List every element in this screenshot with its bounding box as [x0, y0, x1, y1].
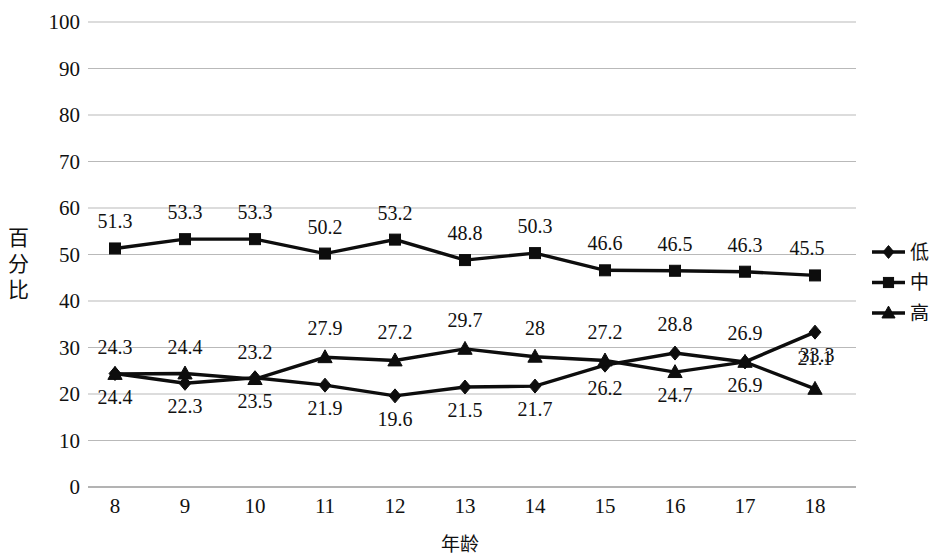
data-label: 53.3 — [238, 201, 273, 223]
y-axis-title-char: 分 — [8, 252, 29, 276]
data-label: 26.9 — [728, 374, 763, 396]
y-tick-label: 30 — [59, 336, 80, 360]
y-tick-label: 70 — [59, 150, 80, 174]
x-tick-label: 14 — [525, 494, 547, 518]
data-point-marker-square — [740, 266, 751, 277]
data-point-marker-square — [460, 255, 471, 266]
data-label: 46.5 — [658, 233, 693, 255]
y-axis-title-char: 百 — [8, 226, 29, 250]
x-axis-title: 年龄 — [441, 533, 479, 555]
data-point-marker-square — [180, 234, 191, 245]
data-label: 27.9 — [308, 317, 343, 339]
data-label: 28.8 — [658, 313, 693, 335]
data-label: 22.3 — [168, 395, 203, 417]
data-label: 27.2 — [378, 321, 413, 343]
data-label: 50.3 — [518, 215, 553, 237]
x-tick-label: 18 — [805, 494, 826, 518]
data-label: 21.1 — [798, 347, 833, 369]
legend-label: 低 — [910, 241, 929, 263]
chart-container: 0102030405060708090100 89101112131415161… — [0, 0, 941, 557]
data-label: 26.2 — [588, 377, 623, 399]
data-label: 28 — [525, 317, 545, 339]
data-label: 51.3 — [98, 210, 133, 232]
y-tick-label: 60 — [59, 196, 80, 220]
x-tick-label: 13 — [455, 494, 476, 518]
x-tick-label: 12 — [385, 494, 406, 518]
data-point-marker-square — [250, 234, 261, 245]
y-axis-title-char: 比 — [8, 278, 29, 302]
data-label: 48.8 — [448, 222, 483, 244]
legend-label: 中 — [910, 271, 929, 293]
data-label: 27.2 — [588, 321, 623, 343]
y-tick-label: 90 — [59, 57, 80, 81]
data-label: 21.9 — [308, 397, 343, 419]
data-label: 46.6 — [588, 232, 623, 254]
data-label: 53.2 — [378, 202, 413, 224]
data-label: 50.2 — [308, 216, 343, 238]
data-label: 53.3 — [168, 201, 203, 223]
data-point-marker-square — [390, 234, 401, 245]
y-tick-label: 0 — [70, 475, 81, 499]
data-label: 24.3 — [98, 336, 133, 358]
data-label: 21.7 — [518, 398, 553, 420]
y-tick-label: 40 — [59, 289, 80, 313]
data-label: 24.4 — [168, 336, 203, 358]
chart-background — [0, 0, 941, 557]
data-label: 45.5 — [790, 237, 825, 259]
data-label: 23.2 — [238, 341, 273, 363]
x-tick-label: 11 — [315, 494, 335, 518]
data-point-marker-square — [810, 270, 821, 281]
x-tick-label: 15 — [595, 494, 616, 518]
data-label: 23.5 — [238, 390, 273, 412]
data-label: 24.7 — [658, 384, 693, 406]
data-label: 19.6 — [378, 408, 413, 430]
legend-label: 高 — [910, 302, 929, 324]
data-point-marker-square — [530, 248, 541, 259]
y-tick-label: 20 — [59, 382, 80, 406]
x-tick-label: 10 — [245, 494, 266, 518]
y-tick-label: 50 — [59, 243, 80, 267]
data-label: 29.7 — [448, 309, 483, 331]
x-tick-label: 9 — [180, 494, 191, 518]
data-label: 46.3 — [728, 234, 763, 256]
data-point-marker-square — [883, 277, 893, 287]
x-tick-label: 17 — [735, 494, 756, 518]
data-point-marker-square — [670, 265, 681, 276]
data-point-marker-square — [600, 265, 611, 276]
y-tick-label: 80 — [59, 103, 80, 127]
x-axis-title: 年龄 — [441, 533, 479, 555]
y-axis-title: 百分比 — [8, 226, 29, 302]
data-point-marker-square — [320, 248, 331, 259]
y-tick-label: 100 — [49, 10, 81, 34]
y-tick-label: 10 — [59, 429, 80, 453]
data-label: 26.9 — [728, 322, 763, 344]
data-label: 21.5 — [448, 399, 483, 421]
x-tick-label: 16 — [665, 494, 686, 518]
data-point-marker-square — [110, 243, 121, 254]
line-chart: 0102030405060708090100 89101112131415161… — [0, 0, 941, 557]
data-label: 24.4 — [98, 386, 133, 408]
x-tick-label: 8 — [110, 494, 121, 518]
